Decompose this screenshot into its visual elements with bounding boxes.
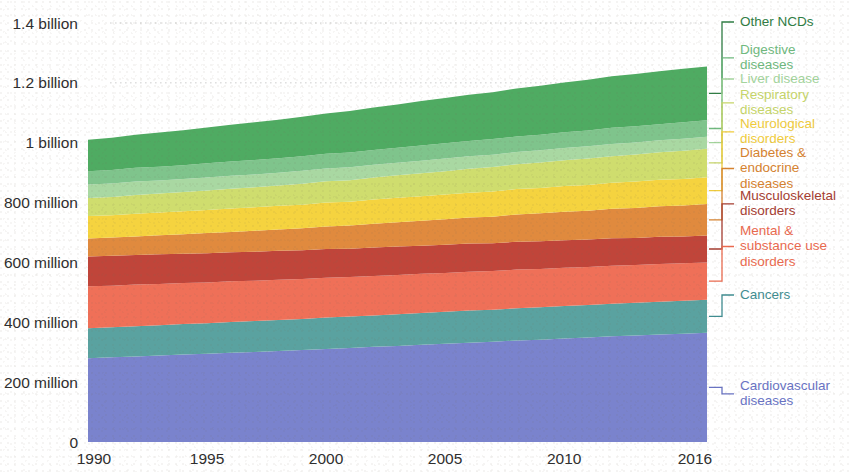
chart-legend: Other NCDsDigestivediseasesLiver disease… bbox=[709, 14, 836, 409]
legend-label-musculoskeletal-disorders[interactable]: disorders bbox=[740, 203, 796, 218]
legend-label-cardiovascular-diseases[interactable]: Cardiovascular bbox=[740, 378, 831, 393]
legend-label-liver-disease[interactable]: Liver disease bbox=[740, 71, 820, 86]
legend-leader-line bbox=[709, 387, 734, 393]
y-tick-label-1000: 1 billion bbox=[25, 134, 78, 151]
legend-label-musculoskeletal-disorders[interactable]: Musculoskeletal bbox=[740, 188, 836, 203]
legend-label-mental-substance-use-disorders[interactable]: substance use bbox=[740, 238, 827, 253]
y-tick-label-0: 0 bbox=[69, 434, 78, 451]
y-tick-label-400: 400 million bbox=[4, 314, 78, 331]
legend-label-diabetes-endocrine-diseases[interactable]: endocrine bbox=[740, 160, 799, 175]
x-tick-label-1990: 1990 bbox=[77, 450, 112, 467]
legend-leader-line bbox=[709, 247, 734, 282]
y-tick-label-1400: 1.4 billion bbox=[13, 15, 79, 32]
stacked-area-chart: 0200 million400 million600 million800 mi… bbox=[0, 0, 849, 472]
x-tick-label-2005: 2005 bbox=[428, 450, 462, 467]
x-tick-label-1995: 1995 bbox=[190, 450, 224, 467]
legend-label-cancers[interactable]: Cancers bbox=[740, 287, 791, 302]
chart-canvas: 0200 million400 million600 million800 mi… bbox=[0, 0, 849, 472]
legend-leader-line bbox=[709, 204, 734, 249]
gridlines bbox=[110, 23, 709, 83]
y-axis-labels: 0200 million400 million600 million800 mi… bbox=[4, 15, 78, 451]
legend-label-diabetes-endocrine-diseases[interactable]: Diabetes & bbox=[740, 145, 806, 160]
y-tick-label-600: 600 million bbox=[4, 254, 78, 271]
legend-label-mental-substance-use-disorders[interactable]: disorders bbox=[740, 254, 796, 269]
x-tick-label-2010: 2010 bbox=[547, 450, 582, 467]
legend-label-respiratory-diseases[interactable]: Respiratory bbox=[740, 87, 809, 102]
legend-leader-line bbox=[709, 295, 734, 316]
y-tick-label-800: 800 million bbox=[4, 194, 78, 211]
area-bands bbox=[88, 66, 707, 442]
legend-label-cardiovascular-diseases[interactable]: diseases bbox=[740, 393, 794, 408]
x-tick-label-2016: 2016 bbox=[678, 450, 712, 467]
legend-label-mental-substance-use-disorders[interactable]: Mental & bbox=[740, 223, 793, 238]
y-tick-label-1200: 1.2 billion bbox=[13, 74, 79, 91]
x-tick-label-2000: 2000 bbox=[309, 450, 344, 467]
legend-label-digestive-diseases[interactable]: Digestive bbox=[740, 42, 796, 57]
x-axis-labels: 199019952000200520102016 bbox=[77, 450, 712, 467]
legend-label-neurological-disorders[interactable]: Neurological bbox=[740, 116, 815, 131]
legend-label-other-ncds[interactable]: Other NCDs bbox=[740, 14, 814, 29]
y-tick-label-200: 200 million bbox=[4, 374, 78, 391]
